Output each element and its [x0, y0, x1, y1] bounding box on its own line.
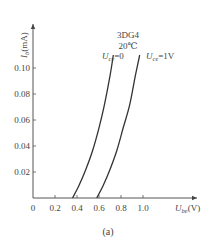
y-tick-label: 0.08 — [14, 89, 30, 99]
x-axis-label: Ube(V) — [175, 203, 200, 214]
curve-uce-1v — [97, 55, 140, 198]
series-label-uce0: Uce=0 — [102, 51, 124, 62]
device-label: 3DG4 — [117, 30, 139, 40]
temperature-label: 20℃ — [118, 41, 137, 51]
axis-ticks — [33, 68, 143, 198]
x-tick-label: 1.0 — [137, 203, 149, 213]
x-tick-label: 0 — [31, 203, 36, 213]
x-tick-label: 0.4 — [71, 203, 83, 213]
y-tick-label: 0.02 — [14, 167, 30, 177]
x-tick-label: 0.2 — [49, 203, 60, 213]
axis-tick-labels: 00.20.40.60.81.00.020.040.060.080.10 — [14, 63, 149, 213]
x-tick-label: 0.6 — [93, 203, 105, 213]
y-tick-label: 0.10 — [14, 63, 30, 73]
chart: 00.20.40.60.81.00.020.040.060.080.10 Ib(… — [0, 0, 216, 244]
y-axis-label: Ib(mA) — [19, 32, 30, 59]
y-tick-label: 0.04 — [14, 141, 30, 151]
x-tick-label: 0.8 — [115, 203, 127, 213]
series-label-uce1v: Uce=1V — [146, 51, 175, 62]
curves — [73, 55, 140, 198]
y-tick-label: 0.06 — [14, 115, 30, 125]
figure-caption: (a) — [0, 226, 216, 237]
